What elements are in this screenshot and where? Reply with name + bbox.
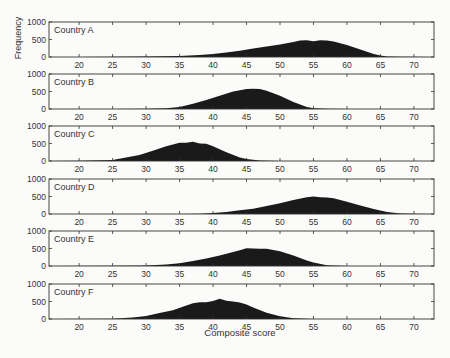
x-tick-label: 25 <box>108 164 118 174</box>
x-tick-label: 25 <box>108 322 118 332</box>
histogram-area <box>46 197 434 215</box>
y-tick-label: 0 <box>41 156 46 166</box>
x-tick-label: 25 <box>108 60 118 70</box>
x-tick-label: 60 <box>342 164 352 174</box>
x-tick-label: 70 <box>409 164 419 174</box>
x-tick-label: 50 <box>275 112 285 122</box>
y-tick-label: 500 <box>32 87 46 97</box>
y-tick-label: 0 <box>41 104 46 114</box>
x-tick-label: 60 <box>342 217 352 227</box>
x-tick-label: 60 <box>342 60 352 70</box>
panel-country-f: 202530354045505560657005001000Country F <box>27 279 434 332</box>
x-tick-label: 40 <box>208 112 218 122</box>
y-tick-label: 500 <box>32 297 46 307</box>
x-tick-label: 60 <box>342 269 352 279</box>
x-tick-label: 65 <box>376 269 386 279</box>
x-tick-label: 70 <box>409 112 419 122</box>
y-axis-label: Frequency <box>13 16 23 59</box>
x-tick-label: 35 <box>175 322 185 332</box>
axes-frame <box>49 179 434 214</box>
y-tick-label: 500 <box>32 35 46 45</box>
panel-label: Country D <box>54 182 95 192</box>
x-tick-label: 45 <box>242 112 252 122</box>
panel-country-d: 202530354045505560657005001000Country D <box>27 174 434 227</box>
panel-label: Country B <box>54 77 94 87</box>
x-tick-label: 30 <box>141 60 151 70</box>
histogram-area <box>46 142 434 161</box>
x-tick-label: 30 <box>141 112 151 122</box>
x-tick-label: 35 <box>175 217 185 227</box>
x-tick-label: 65 <box>376 322 386 332</box>
axes-frame <box>49 126 434 161</box>
y-tick-label: 500 <box>32 244 46 254</box>
panel-country-b: 202530354045505560657005001000Country B <box>27 69 434 122</box>
x-tick-label: 60 <box>342 322 352 332</box>
x-tick-label: 25 <box>108 112 118 122</box>
y-tick-label: 1000 <box>27 121 46 131</box>
x-tick-label: 50 <box>275 164 285 174</box>
x-tick-label: 50 <box>275 217 285 227</box>
panel-label: Country A <box>54 25 94 35</box>
y-tick-label: 0 <box>41 52 46 62</box>
histogram-area <box>46 248 434 266</box>
y-tick-label: 1000 <box>27 174 46 184</box>
x-tick-label: 20 <box>74 60 84 70</box>
x-tick-label: 50 <box>275 269 285 279</box>
y-tick-label: 1000 <box>27 17 46 27</box>
x-tick-label: 20 <box>74 164 84 174</box>
x-tick-label: 65 <box>376 164 386 174</box>
panel-label: Country F <box>54 287 94 297</box>
x-tick-label: 40 <box>208 164 218 174</box>
x-tick-label: 55 <box>309 164 319 174</box>
panel-country-e: 202530354045505560657005001000Country E <box>27 226 434 279</box>
x-tick-label: 70 <box>409 60 419 70</box>
x-tick-label: 45 <box>242 269 252 279</box>
x-tick-label: 60 <box>342 112 352 122</box>
panel-label: Country C <box>54 129 95 139</box>
x-tick-label: 55 <box>309 112 319 122</box>
x-tick-label: 50 <box>275 60 285 70</box>
panel-label: Country E <box>54 234 94 244</box>
x-tick-label: 70 <box>409 322 419 332</box>
histogram-area <box>46 299 434 319</box>
y-tick-label: 1000 <box>27 69 46 79</box>
x-tick-label: 40 <box>208 217 218 227</box>
x-tick-label: 65 <box>376 217 386 227</box>
x-axis-label: Composite score <box>204 327 275 338</box>
x-tick-label: 55 <box>309 269 319 279</box>
x-tick-label: 25 <box>108 217 118 227</box>
y-tick-label: 0 <box>41 261 46 271</box>
panel-country-a: 202530354045505560657005001000Country A <box>27 17 434 70</box>
x-tick-label: 35 <box>175 112 185 122</box>
x-tick-label: 30 <box>141 164 151 174</box>
x-tick-label: 30 <box>141 217 151 227</box>
x-tick-label: 20 <box>74 217 84 227</box>
x-tick-label: 70 <box>409 217 419 227</box>
x-tick-label: 20 <box>74 322 84 332</box>
y-tick-label: 500 <box>32 139 46 149</box>
histogram-figure: Frequency 202530354045505560657005001000… <box>0 0 450 358</box>
x-tick-label: 25 <box>108 269 118 279</box>
x-tick-label: 20 <box>74 112 84 122</box>
x-tick-label: 35 <box>175 164 185 174</box>
x-tick-label: 45 <box>242 60 252 70</box>
x-tick-label: 30 <box>141 322 151 332</box>
x-tick-label: 55 <box>309 322 319 332</box>
x-tick-label: 55 <box>309 217 319 227</box>
y-tick-label: 1000 <box>27 279 46 289</box>
histogram-area <box>46 40 434 57</box>
x-tick-label: 65 <box>376 112 386 122</box>
y-tick-label: 0 <box>41 209 46 219</box>
x-tick-label: 20 <box>74 269 84 279</box>
x-tick-label: 65 <box>376 60 386 70</box>
x-tick-label: 35 <box>175 269 185 279</box>
x-tick-label: 40 <box>208 60 218 70</box>
x-tick-label: 30 <box>141 269 151 279</box>
y-tick-label: 1000 <box>27 226 46 236</box>
x-tick-label: 55 <box>309 60 319 70</box>
x-tick-label: 40 <box>208 269 218 279</box>
y-tick-label: 0 <box>41 314 46 324</box>
y-tick-label: 500 <box>32 192 46 202</box>
x-tick-label: 50 <box>275 322 285 332</box>
x-tick-label: 35 <box>175 60 185 70</box>
